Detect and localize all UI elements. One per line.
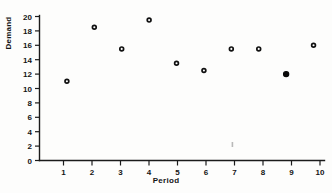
- y-tick-label: 6: [28, 113, 33, 122]
- y-tick-label: 20: [23, 13, 32, 22]
- data-point: [92, 25, 96, 29]
- data-point: [147, 18, 151, 22]
- y-tick-label: 8: [28, 99, 33, 108]
- y-tick-label: 4: [28, 128, 33, 137]
- y-tick-label: 2: [28, 142, 33, 151]
- x-axis-title: Period: [0, 176, 332, 185]
- scan-artifact-speck: [232, 142, 234, 147]
- y-tick-label: 12: [23, 70, 32, 79]
- data-point: [202, 69, 206, 73]
- data-point-group: [65, 18, 315, 83]
- scatter-chart-figure: Demand 0 2 4 6 8 10 12 14 16: [0, 0, 332, 193]
- data-point: [284, 72, 289, 77]
- y-tick-label: 14: [23, 56, 32, 65]
- data-point: [120, 47, 124, 51]
- y-tick-label: 16: [23, 41, 32, 50]
- data-point: [229, 47, 233, 51]
- x-axis-ticks: [64, 161, 321, 166]
- data-point: [257, 47, 261, 51]
- data-point: [65, 79, 69, 83]
- y-tick-label: 10: [23, 85, 32, 94]
- data-point: [175, 61, 179, 65]
- plot-area: 0 2 4 6 8 10 12 14 16 18 20 1 2: [0, 0, 332, 193]
- data-point: [312, 43, 316, 47]
- y-tick-label: 18: [23, 27, 32, 36]
- y-tick-label: 0: [28, 157, 33, 166]
- y-axis-tick-labels: 0 2 4 6 8 10 12 14 16 18 20: [23, 13, 32, 166]
